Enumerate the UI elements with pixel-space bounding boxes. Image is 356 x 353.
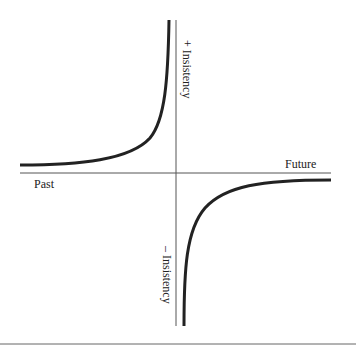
curve-future-branch xyxy=(184,180,331,326)
negative-insistency-label: – Insistency xyxy=(160,245,174,304)
positive-insistency-label: + Insistency xyxy=(180,40,194,98)
past-label: Past xyxy=(34,177,55,191)
future-label: Future xyxy=(285,157,316,171)
curve-past-branch xyxy=(20,20,169,165)
insistency-diagram: Past Future + Insistency – Insistency xyxy=(0,0,356,353)
